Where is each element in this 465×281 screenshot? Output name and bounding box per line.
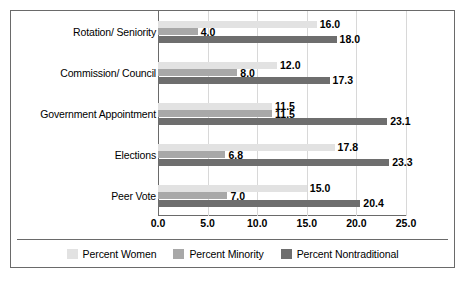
bar-row: 11.5	[158, 110, 406, 117]
chart-frame: Rotation/ SeniorityCommission/ CouncilGo…	[10, 10, 455, 268]
bar-value-label: 23.3	[389, 156, 412, 168]
bar[interactable]	[158, 103, 272, 110]
legend-item[interactable]: Percent Women	[67, 248, 157, 260]
x-axis-line	[158, 215, 406, 216]
bar-value-label: 18.0	[337, 33, 360, 45]
legend-item[interactable]: Percent Minority	[173, 248, 263, 260]
bar[interactable]	[158, 69, 237, 76]
bar-value-label: 23.1	[387, 115, 410, 127]
bar-row: 15.0	[158, 185, 406, 192]
grid-line	[406, 11, 407, 216]
legend-swatch	[281, 249, 292, 259]
bar-row: 17.3	[158, 77, 406, 84]
x-tick-label: 25.0	[396, 217, 416, 229]
bar-row: 18.0	[158, 36, 406, 43]
bar[interactable]	[158, 21, 317, 28]
legend-label: Percent Minority	[189, 248, 263, 260]
legend-item[interactable]: Percent Nontraditional	[281, 248, 399, 260]
bar-row: 23.3	[158, 159, 406, 166]
bar-row: 16.0	[158, 21, 406, 28]
chart-legend: Percent WomenPercent MinorityPercent Non…	[11, 242, 454, 266]
bar[interactable]	[158, 159, 389, 166]
bar-row: 20.4	[158, 200, 406, 207]
bar[interactable]	[158, 144, 335, 151]
category-label: Commission/ Council	[11, 67, 156, 79]
bar-row: 12.0	[158, 62, 406, 69]
bar[interactable]	[158, 192, 227, 199]
legend-label: Percent Nontraditional	[297, 248, 399, 260]
bar-value-label: 17.3	[330, 74, 353, 86]
category-axis-labels: Rotation/ SeniorityCommission/ CouncilGo…	[11, 11, 156, 216]
legend-swatch	[173, 249, 184, 259]
legend-swatch	[67, 249, 78, 259]
bar-row: 8.0	[158, 69, 406, 76]
bar-row: 23.1	[158, 118, 406, 125]
bar-row: 17.8	[158, 144, 406, 151]
bar-row: 6.8	[158, 151, 406, 158]
category-label: Government Appointment	[11, 108, 156, 120]
x-axis-tick-labels: 0.05.010.015.020.025.0	[158, 217, 406, 235]
category-label: Elections	[11, 149, 156, 161]
bar[interactable]	[158, 110, 272, 117]
bar[interactable]	[158, 200, 360, 207]
legend-separator	[17, 239, 448, 240]
bar[interactable]	[158, 118, 387, 125]
bar-row: 4.0	[158, 28, 406, 35]
bar[interactable]	[158, 36, 337, 43]
bar[interactable]	[158, 151, 225, 158]
x-tick-label: 15.0	[297, 217, 317, 229]
legend-label: Percent Women	[83, 248, 157, 260]
x-tick-label: 10.0	[247, 217, 267, 229]
x-tick-label: 5.0	[200, 217, 215, 229]
bar[interactable]	[158, 77, 330, 84]
bars-plot-area: 16.04.018.012.08.017.311.511.523.117.86.…	[158, 11, 406, 216]
category-label: Rotation/ Seniority	[11, 26, 156, 38]
bar[interactable]	[158, 62, 277, 69]
bar-value-label: 20.4	[360, 197, 383, 209]
bar[interactable]	[158, 28, 198, 35]
category-label: Peer Vote	[11, 190, 156, 202]
x-tick-label: 0.0	[151, 217, 166, 229]
x-tick-label: 20.0	[346, 217, 366, 229]
plot-region: Rotation/ SeniorityCommission/ CouncilGo…	[11, 11, 454, 223]
